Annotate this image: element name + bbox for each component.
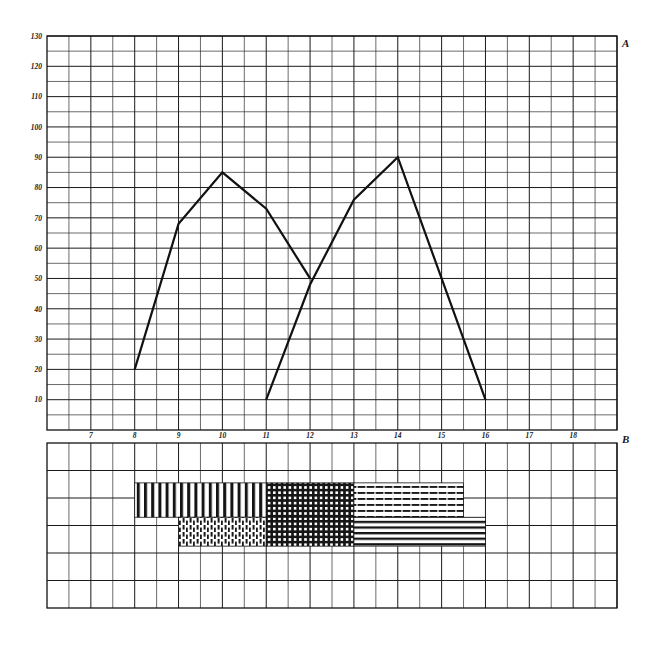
x-tick-label: 15 (438, 431, 446, 440)
y-tick-label: 100 (31, 123, 43, 132)
bar-segment-cross-hatch (266, 517, 354, 546)
x-axis-label-B: B (621, 433, 629, 445)
chart-figure: 102030405060708090100110120130 A 7891011… (0, 0, 649, 652)
bar-segment-dashed-horizontal (354, 483, 464, 517)
y-tick-label: 90 (35, 153, 43, 162)
x-tick-label: 11 (263, 431, 270, 440)
y-tick-label: 20 (34, 365, 43, 374)
bar-segment-solid-horizontal (354, 517, 486, 546)
x-tick-label: 16 (482, 431, 490, 440)
y-tick-label: 130 (31, 32, 43, 41)
x-tick-label: 17 (526, 431, 534, 440)
x-tick-label: 14 (394, 431, 402, 440)
x-tick-label: 12 (306, 431, 314, 440)
x-tick-label: 9 (177, 431, 181, 440)
x-tick-label: 13 (350, 431, 358, 440)
x-tick-label: 10 (219, 431, 227, 440)
y-axis-label-A: A (621, 37, 629, 49)
y-tick-label: 60 (35, 244, 43, 253)
bar-segment-dashed-vertical (179, 517, 267, 546)
y-tick-label: 30 (34, 335, 43, 344)
y-tick-label: 110 (31, 92, 42, 101)
y-tick-label: 70 (35, 214, 43, 223)
bar-bands-group (135, 483, 486, 546)
y-tick-label: 10 (35, 395, 43, 404)
y-tick-label: 80 (35, 183, 43, 192)
y-tick-label: 120 (31, 62, 43, 71)
bar-segment-vertical-hatch (135, 483, 267, 517)
x-tick-label: 7 (89, 431, 93, 440)
bar-segment-cross-hatch (266, 483, 354, 517)
chart-svg: 102030405060708090100110120130 A 7891011… (0, 0, 649, 652)
x-tick-label: 18 (569, 431, 577, 440)
figure-background (0, 0, 649, 652)
x-tick-label: 8 (133, 431, 137, 440)
y-tick-label: 50 (35, 274, 43, 283)
y-tick-label: 40 (34, 305, 43, 314)
